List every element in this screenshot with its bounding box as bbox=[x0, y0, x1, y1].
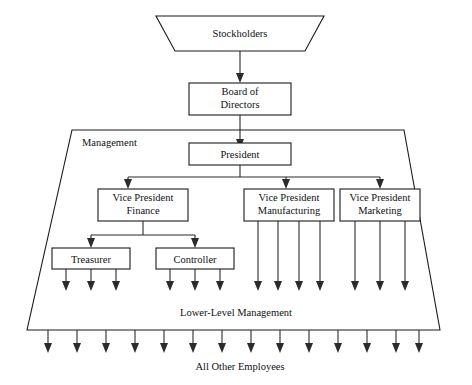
lower-level-management-label: Lower-Level Management bbox=[180, 307, 292, 318]
all-other-employees-label: All Other Employees bbox=[195, 361, 284, 372]
node-vp-finance: Vice President Finance bbox=[98, 189, 188, 221]
node-controller-label: Controller bbox=[173, 254, 217, 265]
node-vp-manufacturing: Vice President Manufacturing bbox=[244, 189, 334, 221]
arrows-controller-subordinates bbox=[166, 269, 224, 291]
node-treasurer: Treasurer bbox=[52, 248, 130, 269]
node-vp-marketing-label-line2: Marketing bbox=[358, 205, 402, 216]
node-stockholders: Stockholders bbox=[156, 16, 324, 51]
node-stockholders-label: Stockholders bbox=[213, 28, 268, 39]
region-management-label: Management bbox=[82, 137, 137, 148]
node-vp-finance-label-line1: Vice President bbox=[113, 192, 174, 203]
connector-president-vps bbox=[124, 165, 384, 189]
node-controller: Controller bbox=[156, 248, 234, 269]
node-board-of-directors: Board of Directors bbox=[189, 83, 291, 115]
node-board-label-line1: Board of bbox=[221, 86, 259, 97]
arrows-vp-manufacturing-subordinates bbox=[254, 221, 324, 291]
node-vp-finance-label-line2: Finance bbox=[126, 205, 160, 216]
node-vp-marketing-label-line1: Vice President bbox=[350, 192, 411, 203]
node-treasurer-label: Treasurer bbox=[71, 254, 111, 265]
arrows-all-other-employees bbox=[44, 330, 423, 353]
node-president-label: President bbox=[220, 149, 259, 160]
node-board-label-line2: Directors bbox=[220, 99, 259, 110]
arrows-vp-marketing-subordinates bbox=[351, 221, 409, 291]
node-vp-marketing: Vice President Marketing bbox=[340, 189, 420, 221]
connector-stockholders-board bbox=[236, 51, 244, 83]
node-president: President bbox=[189, 143, 291, 165]
connector-vpfinance-subordinates bbox=[87, 221, 199, 248]
node-vp-manufacturing-label-line1: Vice President bbox=[259, 192, 320, 203]
arrows-treasurer-subordinates bbox=[62, 269, 120, 291]
org-chart-diagram: Stockholders Board of Directors Manageme… bbox=[0, 0, 472, 385]
node-vp-manufacturing-label-line2: Manufacturing bbox=[258, 205, 321, 216]
